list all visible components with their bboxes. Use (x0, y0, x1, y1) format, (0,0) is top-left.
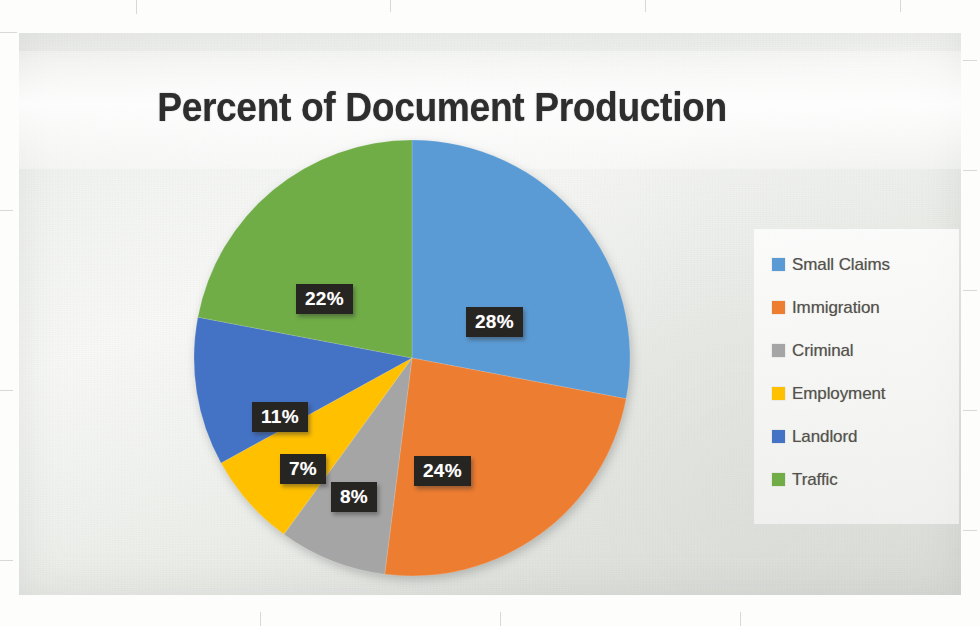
legend-item-landlord[interactable]: Landlord (772, 415, 959, 458)
chart-title: Percent of Document Production (49, 85, 836, 130)
legend-item-immigration[interactable]: Immigration (772, 286, 959, 329)
legend-swatch-employment (772, 387, 785, 400)
data-label-criminal: 8% (331, 482, 377, 512)
scanned-page: Percent of Document Production 22% 28% 1… (0, 0, 980, 626)
data-label-small-claims: 28% (466, 307, 523, 337)
legend-label-landlord: Landlord (792, 427, 857, 447)
pie-chart-figure: Percent of Document Production 22% 28% 1… (19, 33, 961, 595)
margin-tick (500, 612, 501, 626)
legend-label-small-claims: Small Claims (792, 255, 890, 275)
legend-swatch-landlord (772, 430, 785, 443)
margin-tick (963, 60, 977, 61)
legend-swatch-immigration (772, 301, 785, 314)
margin-tick (0, 32, 17, 33)
legend-item-criminal[interactable]: Criminal (772, 329, 959, 372)
margin-tick (136, 0, 137, 14)
pie-plot-area: 22% 28% 11% 7% 8% 24% (192, 138, 632, 578)
margin-tick (740, 612, 741, 626)
legend-label-immigration: Immigration (792, 298, 880, 318)
legend-swatch-traffic (772, 473, 785, 486)
pie-slice-group (194, 140, 630, 576)
legend-label-traffic: Traffic (792, 470, 838, 490)
legend-swatch-small-claims (772, 258, 785, 271)
pie-slice-small-claims[interactable] (412, 140, 630, 399)
legend-swatch-criminal (772, 344, 785, 357)
data-label-traffic: 22% (296, 284, 353, 314)
pie-svg (192, 138, 632, 578)
chart-legend: Small Claims Immigration Criminal Employ… (754, 229, 959, 524)
margin-tick (645, 0, 646, 12)
margin-tick (0, 560, 13, 561)
margin-tick (260, 612, 261, 626)
margin-tick (900, 0, 901, 12)
margin-tick (0, 390, 13, 391)
data-label-employment: 7% (280, 454, 326, 484)
legend-label-criminal: Criminal (792, 341, 854, 361)
data-label-immigration: 24% (414, 456, 471, 486)
margin-tick (963, 290, 977, 291)
legend-item-traffic[interactable]: Traffic (772, 458, 959, 501)
data-label-landlord: 11% (252, 402, 308, 432)
legend-label-employment: Employment (792, 384, 885, 404)
margin-tick (963, 530, 977, 531)
legend-item-small-claims[interactable]: Small Claims (772, 243, 959, 286)
legend-item-employment[interactable]: Employment (772, 372, 959, 415)
margin-tick (0, 210, 13, 211)
margin-tick (390, 0, 391, 12)
margin-tick (963, 170, 977, 171)
margin-tick (963, 410, 977, 411)
